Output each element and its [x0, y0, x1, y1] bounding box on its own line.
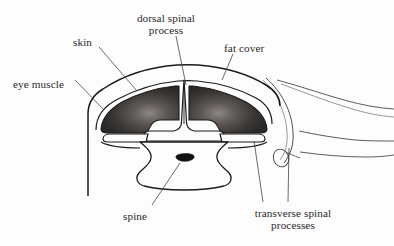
label-transverse-spinal-processes: transverse spinal processes	[238, 207, 348, 232]
vertebra-group	[137, 142, 231, 190]
label-dorsal-spinal-process: dorsal spinal process	[120, 12, 212, 37]
label-skin: skin	[73, 36, 92, 48]
label-transverse-spinal-processes-line2: processes	[238, 219, 348, 231]
label-spine: spine	[123, 210, 147, 222]
spinal-canal-marking	[176, 154, 194, 162]
transverse-process-right-lower	[228, 142, 267, 148]
body-silhouette	[263, 78, 394, 169]
label-transverse-spinal-processes-line1: transverse spinal	[238, 207, 348, 219]
tail-mid-contour	[281, 84, 394, 117]
leader-transverse-processes-a	[254, 141, 263, 202]
figure-root: eye muscle skin dorsal spinal process fa…	[0, 0, 394, 246]
transverse-process-left	[103, 134, 148, 142]
tail-belly-contour	[300, 152, 394, 157]
vertebra-outline	[137, 142, 231, 190]
label-dorsal-spinal-process-line1: dorsal spinal	[120, 12, 212, 24]
tail-lower-contour	[299, 131, 394, 141]
tail-upper-contour	[277, 80, 394, 109]
label-eye-muscle: eye muscle	[13, 78, 64, 90]
label-dorsal-spinal-process-line2: process	[120, 24, 212, 36]
label-fat-cover: fat cover	[224, 42, 264, 54]
transverse-process-right	[220, 134, 265, 142]
